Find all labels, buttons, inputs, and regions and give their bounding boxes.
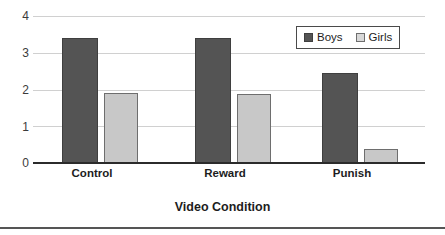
bar-chart-figure: 4 3 2 1 0 Control Reward Punish Video Co… bbox=[0, 0, 445, 235]
chart-legend: Boys Girls bbox=[296, 26, 400, 49]
bar-punish-girls[interactable] bbox=[364, 149, 398, 163]
bottom-divider bbox=[0, 227, 445, 229]
x-tick-label-reward: Reward bbox=[185, 168, 265, 180]
legend-label-boys: Boys bbox=[317, 32, 343, 44]
bar-reward-girls[interactable] bbox=[237, 94, 271, 163]
bar-punish-boys[interactable] bbox=[322, 73, 358, 163]
y-tick-label-3: 3 bbox=[3, 47, 29, 59]
x-axis-title: Video Condition bbox=[0, 201, 445, 214]
bar-group-control bbox=[62, 16, 166, 163]
x-tick-label-punish: Punish bbox=[312, 168, 392, 180]
y-tick-label-2: 2 bbox=[3, 84, 29, 96]
bar-group-reward bbox=[195, 16, 299, 163]
x-axis-baseline bbox=[33, 162, 425, 164]
y-axis: 4 3 2 1 0 bbox=[0, 0, 29, 235]
bar-reward-boys[interactable] bbox=[195, 38, 231, 163]
bar-control-girls[interactable] bbox=[104, 93, 138, 163]
legend-item-boys[interactable]: Boys bbox=[304, 32, 343, 44]
legend-item-girls[interactable]: Girls bbox=[356, 32, 393, 44]
legend-label-girls: Girls bbox=[369, 32, 393, 44]
y-tick-label-4: 4 bbox=[3, 10, 29, 22]
x-tick-label-control: Control bbox=[52, 168, 132, 180]
girls-swatch-icon bbox=[356, 33, 365, 42]
y-tick-label-0: 0 bbox=[3, 157, 29, 169]
bar-control-boys[interactable] bbox=[62, 38, 98, 163]
y-tick-label-1: 1 bbox=[3, 121, 29, 133]
boys-swatch-icon bbox=[304, 33, 313, 42]
